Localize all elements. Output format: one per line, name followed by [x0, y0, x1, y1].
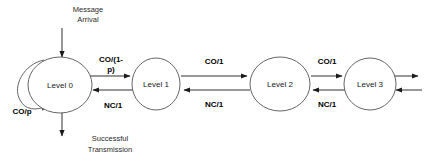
- edge-label-level1-to-level0: NC/1: [104, 101, 123, 110]
- edge-label-level0-to-level1-line1: CO/(1-: [99, 55, 123, 64]
- state-diagram-canvas: Level 0 Level 1 Level 2 Level 3 CO/(1- p…: [0, 0, 430, 168]
- edge-label-level2-to-level3: CO/1: [318, 57, 337, 66]
- annotation-successful-transmission-line2: Transmission: [88, 145, 132, 154]
- edge-label-level1-to-level2: CO/1: [205, 57, 224, 66]
- annotation-message-arrival-line1: Message: [73, 5, 103, 14]
- annotation-successful-transmission-line1: Successful: [92, 134, 129, 143]
- edge-label-level3-to-level2: NC/1: [318, 100, 337, 109]
- state-label-level-2: Level 2: [267, 80, 293, 89]
- edge-label-level0-self-loop: CO/p: [12, 107, 31, 116]
- state-diagram-svg: Level 0 Level 1 Level 2 Level 3 CO/(1- p…: [0, 0, 430, 168]
- annotation-message-arrival-line2: Arrival: [77, 15, 99, 24]
- edge-label-level2-to-level1: NC/1: [205, 100, 224, 109]
- edge-label-level0-to-level1-line2: p): [107, 65, 115, 74]
- state-label-level-0: Level 0: [47, 81, 73, 90]
- state-label-level-1: Level 1: [143, 80, 169, 89]
- state-label-level-3: Level 3: [357, 80, 383, 89]
